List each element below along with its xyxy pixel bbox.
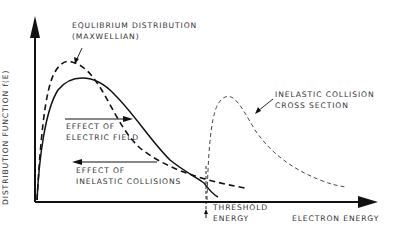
inelastic-collisions-label-line2: INELASTIC COLLISIONS [76, 177, 181, 187]
y-axis-label: DISTRIBUTION FUNCTION f(E) [1, 70, 10, 205]
electric-field-arrowhead-icon [123, 116, 133, 122]
threshold-label-line2: ENERGY [213, 214, 249, 224]
cross-section-label-line1: INELASTIC COLLISION [275, 90, 375, 100]
cross-section-pointer-arrow-icon [255, 107, 261, 114]
y-axis-arrowhead-icon [30, 16, 40, 38]
threshold-arrow-icon [204, 209, 208, 214]
cross-section-label-line2: CROSS SECTION [275, 101, 349, 111]
x-axis [35, 196, 378, 208]
equilibrium-label-line2: (MAXWELLIAN) [72, 32, 140, 42]
diagram-canvas [0, 0, 399, 235]
x-axis-label: ELECTRON ENERGY [292, 214, 379, 224]
x-axis-arrowhead-icon [358, 196, 378, 208]
electric-field-label-line2: ELECTRIC FIELD [66, 133, 139, 143]
cross-section-curve [207, 96, 346, 200]
cross-section-pointer [258, 99, 273, 111]
equilibrium-label-line1: EQULIBRIUM DISTRIBUTION [72, 21, 197, 31]
threshold-label-line1: THRESHOLD [213, 203, 268, 213]
inelastic-collisions-label-line1: EFFECT OF [76, 166, 125, 176]
electric-field-label-line1: EFFECT OF [66, 122, 115, 132]
inelastic-collisions-arrowhead-icon [72, 159, 82, 165]
